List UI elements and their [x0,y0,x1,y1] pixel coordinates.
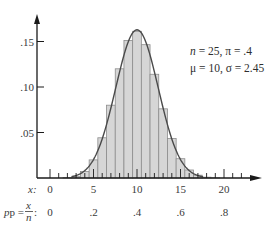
svg-text::: : [34,206,37,218]
p-fraction-numerator: x [25,199,31,211]
y-axis-arrow-icon [34,14,40,24]
histogram-bar [107,105,116,178]
histogram-bar [124,40,133,178]
histogram-bar [98,138,107,178]
p-tick-label: .6 [176,206,185,218]
x-tick-label: 10 [132,183,144,195]
histogram-bar [167,139,176,178]
p-tick-label: .2 [89,206,97,218]
histogram-bar [133,31,142,178]
p-tick-label: .4 [133,206,142,218]
x-row-label: x: [27,183,37,195]
x-tick-label: 5 [91,183,97,195]
y-tick-label: .15 [20,36,34,48]
x-tick-label: 0 [47,183,53,195]
histogram-bar [141,45,150,178]
x-tick-label: 20 [219,183,231,195]
param-line-n-pi: n = 25, π = .4 [190,45,252,58]
p-tick-label: .8 [220,206,229,218]
p-row-label: pp = x n : [3,199,37,223]
x-tick-label: 15 [175,183,187,195]
histogram-bar [150,74,159,178]
p-tick-label: 0 [47,206,53,218]
param-line-mu-sigma: μ = 10, σ = 2.45 [190,62,264,75]
x-axis-arrow-icon [250,175,262,181]
p-fraction-denominator: n [26,211,32,223]
y-tick-label: .10 [20,81,34,93]
binomial-histogram-chart: .05.10.15005.210.415.620.8 n = 25, π = .… [0,0,276,236]
svg-text:pp =: pp = [3,206,24,218]
y-tick-label: .05 [20,127,34,139]
